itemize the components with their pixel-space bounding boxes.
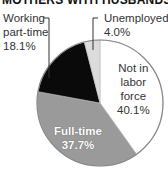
unemployed-label-text: Unemployed	[104, 11, 168, 25]
full-time-value: 37.7%	[54, 138, 102, 152]
part-time-label: Working part-time 18.1%	[3, 11, 48, 53]
part-time-label-line2: part-time	[3, 25, 48, 39]
nlf-label-line2: labor	[117, 75, 150, 89]
unemployed-value: 4.0%	[104, 25, 168, 39]
nlf-label-line1: Not in	[117, 61, 150, 75]
not-in-labor-force-label: Not in labor force 40.1%	[117, 61, 150, 117]
unemployed-label: Unemployed 4.0%	[104, 11, 168, 39]
full-time-label: Full-time 37.7%	[54, 124, 102, 152]
full-time-label-text: Full-time	[54, 124, 102, 138]
part-time-label-line1: Working	[3, 11, 48, 25]
nlf-label-line3: force	[117, 89, 150, 103]
part-time-value: 18.1%	[3, 39, 48, 53]
nlf-value: 40.1%	[117, 103, 150, 117]
